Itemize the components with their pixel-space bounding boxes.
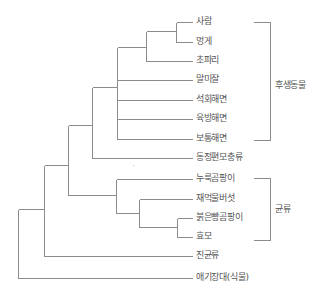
leaf-label-calcareous-sponge: 석회해면 [196,94,227,105]
leaf-label-arabidopsis: 애기장대(식물) [196,272,249,283]
phylogenetic-tree: 사람 멍게 초파리 말미잘 석회해면 육방해면 보통해면 동정편모충류 누룩곰팡… [0,0,324,303]
leaf-label-demosponge: 보통해면 [196,133,227,144]
leaf-label-chytrid: 진균류 [196,250,219,261]
leaf-label-yeast: 효모 [196,231,211,242]
stray-dot [133,165,134,166]
tree-branches [0,0,324,303]
leaf-label-choanoflagellate: 동정편모충류 [196,152,242,163]
leaf-label-sea-anemone: 말미잘 [196,74,219,85]
leaf-label-neurospora: 붉은빵곰팡이 [196,212,242,223]
leaf-label-human: 사람 [196,16,211,27]
leaf-label-sea-squirt: 멍게 [196,36,211,47]
group-label-metazoa: 후생동물 [275,80,306,91]
leaf-label-glass-sponge: 육방해면 [196,113,227,124]
leaf-label-coprinus: 재먹물버섯 [196,193,235,204]
leaf-label-fruit-fly: 초파리 [196,55,219,66]
group-label-fungi: 균류 [275,204,290,215]
leaf-label-aspergillus: 누룩곰팡이 [196,173,235,184]
